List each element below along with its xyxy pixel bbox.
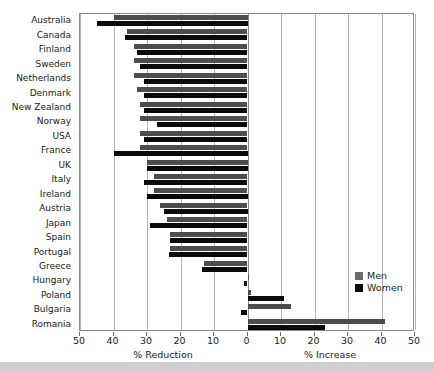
bar-women bbox=[248, 296, 285, 301]
y-axis-category-labels: AustraliaCanadaFinlandSwedenNetherlandsD… bbox=[0, 13, 75, 331]
bar-row bbox=[80, 14, 413, 28]
bar-row bbox=[80, 173, 413, 187]
bar-men bbox=[134, 58, 248, 63]
bar-women bbox=[144, 79, 248, 84]
y-axis-label: Bulgaria bbox=[34, 304, 71, 314]
bar-men bbox=[170, 246, 247, 251]
bar-women bbox=[202, 267, 247, 272]
bar-row bbox=[80, 86, 413, 100]
bar-men bbox=[147, 160, 248, 165]
bar-women bbox=[169, 252, 248, 257]
footer-strip bbox=[0, 362, 434, 372]
bar-men bbox=[154, 188, 248, 193]
y-axis-label: Netherlands bbox=[16, 73, 71, 83]
bar-men bbox=[248, 275, 250, 280]
bar-women bbox=[144, 180, 248, 185]
y-axis-label: Portugal bbox=[34, 247, 71, 257]
y-axis-label: Norway bbox=[37, 116, 71, 126]
bar-men bbox=[170, 232, 247, 237]
bar-women bbox=[144, 93, 248, 98]
bar-women bbox=[140, 64, 247, 69]
x-tick-label: 10 bbox=[207, 335, 219, 346]
bar-women bbox=[244, 281, 247, 286]
y-axis-label: UK bbox=[59, 160, 72, 170]
bar-row bbox=[80, 115, 413, 129]
bar-row bbox=[80, 231, 413, 245]
bar-row bbox=[80, 130, 413, 144]
bar-women bbox=[144, 108, 248, 113]
x-tick-label: 50 bbox=[408, 335, 420, 346]
legend-swatch-women-icon bbox=[355, 284, 363, 292]
bar-men bbox=[140, 102, 247, 107]
y-axis-label: USA bbox=[52, 131, 71, 141]
y-axis-label: Australia bbox=[31, 15, 71, 25]
bar-women bbox=[137, 50, 248, 55]
bar-row bbox=[80, 245, 413, 259]
bar-row bbox=[80, 318, 413, 332]
x-tick-label: 10 bbox=[274, 335, 286, 346]
y-axis-label: Poland bbox=[41, 290, 71, 300]
bar-women bbox=[150, 223, 247, 228]
bar-women bbox=[157, 122, 247, 127]
legend-label-women: Women bbox=[367, 282, 403, 294]
bar-men bbox=[160, 203, 247, 208]
legend-swatch-men-icon bbox=[355, 272, 363, 280]
bar-row bbox=[80, 144, 413, 158]
bar-row bbox=[80, 303, 413, 317]
chart-container: AustraliaCanadaFinlandSwedenNetherlandsD… bbox=[0, 0, 434, 372]
x-tick-label: 0 bbox=[243, 335, 249, 346]
bar-row bbox=[80, 202, 413, 216]
y-axis-label: Japan bbox=[46, 218, 71, 228]
y-axis-label: New Zealand bbox=[12, 102, 71, 112]
x-tick-label: 30 bbox=[140, 335, 152, 346]
y-axis-label: France bbox=[41, 145, 71, 155]
bar-men bbox=[134, 73, 248, 78]
bar-men bbox=[134, 44, 248, 49]
legend-item-women: Women bbox=[355, 282, 403, 294]
bar-men bbox=[140, 131, 247, 136]
bar-women bbox=[97, 21, 248, 26]
bar-women bbox=[147, 166, 248, 171]
y-axis-label: Italy bbox=[51, 174, 71, 184]
y-axis-label: Austria bbox=[39, 203, 71, 213]
y-axis-label: Romania bbox=[32, 319, 71, 329]
bar-women bbox=[164, 209, 248, 214]
bar-row bbox=[80, 72, 413, 86]
gridline bbox=[415, 14, 416, 330]
bar-men bbox=[114, 15, 248, 20]
bar-women bbox=[114, 151, 248, 156]
y-axis-label: Ireland bbox=[40, 189, 71, 199]
bar-women bbox=[248, 325, 325, 330]
bar-men bbox=[137, 87, 248, 92]
bar-women bbox=[125, 35, 247, 40]
y-axis-label: Sweden bbox=[35, 59, 71, 69]
y-axis-label: Hungary bbox=[33, 275, 71, 285]
bar-row bbox=[80, 28, 413, 42]
bar-men bbox=[248, 290, 251, 295]
bar-men bbox=[248, 304, 292, 309]
x-tick-label: 40 bbox=[374, 335, 386, 346]
legend-item-men: Men bbox=[355, 270, 403, 282]
bar-row bbox=[80, 57, 413, 71]
bar-women bbox=[144, 137, 248, 142]
legend-label-men: Men bbox=[367, 270, 387, 282]
bar-men bbox=[248, 319, 385, 324]
bar-men bbox=[127, 29, 248, 34]
bar-men bbox=[140, 116, 247, 121]
y-axis-label: Denmark bbox=[30, 88, 71, 98]
bar-row bbox=[80, 43, 413, 57]
x-tick-label: 40 bbox=[106, 335, 118, 346]
bar-women bbox=[241, 310, 248, 315]
x-tick-label: 20 bbox=[173, 335, 185, 346]
chart-legend: Men Women bbox=[355, 270, 403, 294]
y-axis-label: Spain bbox=[46, 232, 71, 242]
bar-men bbox=[204, 261, 248, 266]
bar-men bbox=[167, 217, 247, 222]
bar-row bbox=[80, 216, 413, 230]
x-tick-label: 50 bbox=[73, 335, 85, 346]
x-axis-label-reduction: % Reduction bbox=[133, 349, 193, 360]
y-axis-label: Canada bbox=[37, 30, 71, 40]
bar-row bbox=[80, 187, 413, 201]
bar-men bbox=[140, 145, 247, 150]
bar-women bbox=[170, 238, 247, 243]
